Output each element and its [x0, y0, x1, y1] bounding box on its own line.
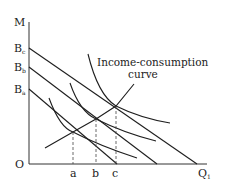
- diagram-canvas: M O Q1 Bc Bb Ba a b c Income-consumption…: [0, 0, 226, 185]
- annotation-line-1: Income-consumption: [97, 56, 209, 68]
- indifference-curve-1: [49, 98, 137, 158]
- y-intercept-label-bc: Bc: [14, 42, 26, 55]
- x-tick-label-c: c: [112, 167, 118, 180]
- indifference-curve-2: [70, 83, 156, 141]
- y-intercept-label-ba: Ba: [14, 83, 26, 96]
- annotation-line-2: curve: [128, 68, 158, 80]
- x-tick-label-b: b: [92, 167, 99, 180]
- x-tick-label-a: a: [70, 167, 77, 180]
- y-intercept-label-bb: Bb: [14, 61, 26, 74]
- y-axis-label: M: [14, 16, 25, 29]
- income-consumption-diagram: M O Q1 Bc Bb Ba a b c Income-consumption…: [0, 0, 226, 185]
- x-axis-label: Q1: [198, 167, 211, 180]
- origin-label: O: [15, 158, 24, 171]
- income-consumption-curve: [45, 84, 134, 148]
